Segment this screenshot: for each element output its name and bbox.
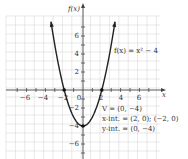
x-tick-label: −6 (20, 94, 31, 102)
y-tick-label: 6 (75, 32, 80, 40)
y-tick-label: −6 (69, 140, 80, 148)
curve-arrow-right-icon (112, 21, 116, 27)
x-axis (6, 88, 166, 92)
x-tick-label: 6 (137, 94, 142, 102)
key-point-marker (100, 88, 104, 92)
x-tick-label: 4 (119, 94, 124, 102)
y-axis-label: f(x) (67, 5, 80, 13)
vertex-annotation: V = (0, −4) (101, 105, 142, 113)
y-tick-label: 2 (75, 68, 79, 76)
function-label: f(x) = x² − 4 (114, 47, 158, 55)
x-tick-label: −4 (38, 94, 49, 102)
y-tick-label: 4 (75, 50, 80, 58)
parabola-chart: −6 −4 −2 2 4 6 0 x 6 4 2 −2 −4 −6 f(x) f… (0, 0, 188, 159)
x-intercepts-annotation: x-int. = (2, 0); (−2, 0) (102, 115, 179, 123)
y-intercept-annotation: y-int. = (0, −4) (101, 125, 155, 133)
key-point-marker (62, 88, 66, 92)
x-tick-labels: −6 −4 −2 2 4 6 0 x (20, 91, 166, 102)
y-axis-arrow-icon (81, 3, 85, 8)
origin-label: 0 (77, 94, 81, 102)
x-axis-label: x (162, 91, 166, 99)
key-point-marker (81, 124, 85, 128)
y-tick-labels: 6 4 2 −2 −4 −6 f(x) (67, 5, 80, 148)
